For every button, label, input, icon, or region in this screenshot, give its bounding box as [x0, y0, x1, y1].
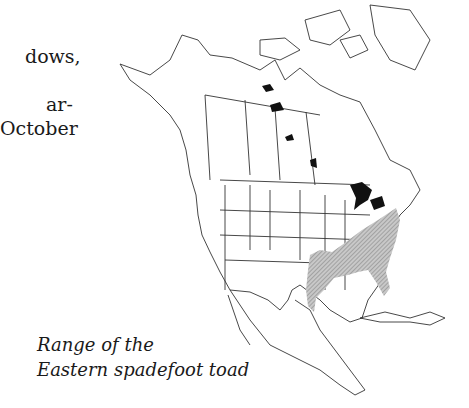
body-text-line: ar-: [46, 92, 73, 116]
map-caption: Range of the Eastern spadefoot toad: [0, 332, 249, 382]
caption-line: Range of the: [0, 332, 249, 357]
body-text-line: October: [0, 116, 78, 140]
body-text-line: dows,: [25, 44, 81, 68]
caption-line: Eastern spadefoot toad: [0, 357, 249, 382]
lakes: [262, 84, 385, 210]
species-range: [306, 208, 400, 312]
